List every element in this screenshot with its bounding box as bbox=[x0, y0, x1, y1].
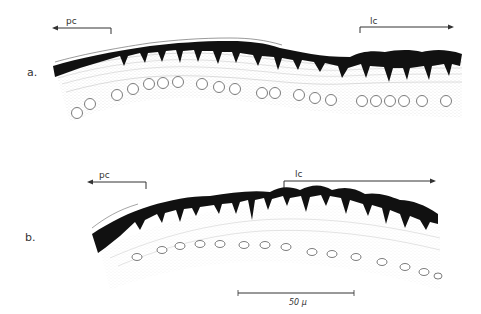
scale-bar-label: 50 μ bbox=[289, 298, 307, 307]
pc-label: pc bbox=[66, 16, 77, 26]
panel-a-pc-marker: pc bbox=[52, 16, 111, 34]
histology-figure: a. pc lc bbox=[0, 0, 481, 314]
panel-b-label: b. bbox=[25, 231, 35, 244]
panel-a: a. pc lc bbox=[27, 16, 462, 122]
panel-b-lc-marker: lc bbox=[284, 169, 436, 188]
panel-a-lc-marker: lc bbox=[360, 16, 454, 33]
scale-bar: 50 μ bbox=[238, 290, 354, 307]
panel-a-label: a. bbox=[27, 66, 37, 79]
panel-b: b. pc lc bbox=[25, 169, 442, 290]
lc-label-b: lc bbox=[295, 169, 303, 179]
pc-label-b: pc bbox=[99, 170, 110, 180]
lc-label: lc bbox=[370, 16, 378, 26]
panel-b-pc-marker: pc bbox=[87, 170, 146, 189]
